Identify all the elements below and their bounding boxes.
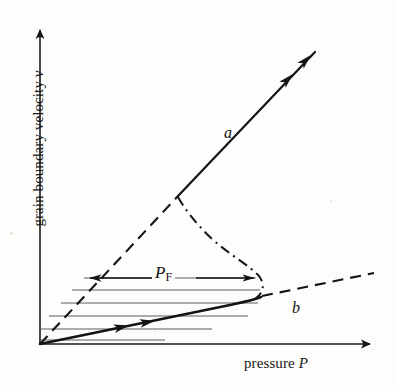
pf-subscript: F xyxy=(165,270,172,284)
branch-b-dashed-extension xyxy=(262,273,374,296)
branch-b-solid xyxy=(40,297,261,344)
x-axis-label: pressure P xyxy=(244,355,308,372)
x-axis-label-text: pressure xyxy=(244,355,299,371)
y-axis-variable: v xyxy=(30,70,46,77)
scan-artifact xyxy=(154,330,156,332)
scan-artifact xyxy=(330,200,332,202)
branch-b-label: b xyxy=(292,299,300,317)
y-axis-label: grain boundary velocity v xyxy=(30,39,47,259)
figure-container: grain boundary velocity v pressure P a b… xyxy=(0,0,396,386)
y-axis-label-text: grain boundary velocity xyxy=(30,77,46,226)
plot-canvas xyxy=(0,0,396,386)
x-axis-variable: P xyxy=(299,355,308,371)
hatch-region xyxy=(40,278,260,340)
unstable-middle-branch xyxy=(178,197,263,299)
scan-artifact xyxy=(10,232,13,235)
branch-a-solid xyxy=(178,52,315,196)
pf-symbol: P xyxy=(155,263,165,282)
branch-a-label: a xyxy=(224,124,232,142)
pf-label: PF xyxy=(152,264,175,283)
